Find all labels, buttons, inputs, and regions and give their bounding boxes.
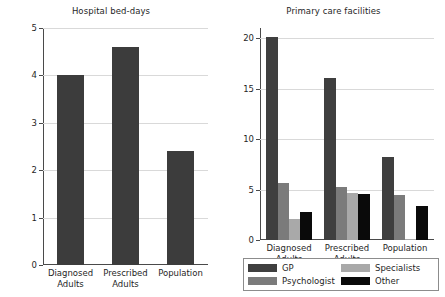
y-axis-right	[260, 28, 261, 240]
y-tick-label-right: 10	[243, 135, 254, 144]
x-tick-label-left: Diagnosed Adults	[43, 268, 98, 289]
legend-item-psychologist: Psychologist	[248, 277, 341, 286]
y-tick-label-right: 20	[243, 34, 254, 43]
figure-root: Hospital bed-days 012345 Diagnosed Adult…	[0, 0, 445, 297]
legend-label-psychologist: Psychologist	[282, 277, 335, 286]
y-tick-left-3	[39, 123, 43, 124]
legend: GPSpecialistsPsychologistOther	[243, 258, 439, 291]
chart-panel-primary-care-facilities: Primary care facilities 05101520 Diagnos…	[222, 0, 445, 297]
y-tick-label-left: 1	[32, 213, 37, 222]
x-tick-label-left: Prescribed Adults	[98, 268, 153, 289]
y-tick-label-left: 0	[32, 261, 37, 270]
y-tick-right-5	[256, 190, 260, 191]
y-tick-label-right: 15	[243, 84, 254, 93]
chart-title-right: Primary care facilities	[222, 6, 445, 16]
bar-right-other-2	[416, 206, 427, 240]
x-tick-labels-left: Diagnosed AdultsPrescribed AdultsPopulat…	[43, 268, 208, 289]
bar-right-other-1	[358, 194, 369, 240]
y-tick-label-left: 2	[32, 166, 37, 175]
bar-left-0	[57, 75, 85, 265]
y-tick-left-0	[39, 265, 43, 266]
legend-swatch-other	[341, 277, 370, 285]
legend-swatch-gp	[248, 264, 277, 272]
legend-item-specialists: Specialists	[341, 264, 434, 273]
legend-swatch-psychologist	[248, 277, 277, 285]
legend-swatch-specialists	[341, 264, 370, 272]
legend-label-gp: GP	[282, 264, 294, 273]
x-tick-label-left: Population	[153, 268, 208, 289]
y-tick-left-4	[39, 75, 43, 76]
y-tick-left-2	[39, 170, 43, 171]
y-tick-label-left: 5	[32, 24, 37, 33]
legend-label-specialists: Specialists	[375, 264, 420, 273]
y-tick-right-15	[256, 89, 260, 90]
gridline-right-10	[260, 139, 434, 140]
chart-title-left: Hospital bed-days	[0, 6, 222, 16]
gridline-right-20	[260, 38, 434, 39]
plot-area-left: 012345	[43, 28, 208, 265]
y-tick-left-5	[39, 28, 43, 29]
bar-left-2	[167, 151, 195, 265]
legend-item-other: Other	[341, 277, 434, 286]
bar-left-1	[112, 47, 140, 265]
bar-right-psychologist-1	[336, 187, 347, 241]
bar-right-specialists-2	[405, 239, 416, 240]
bar-right-other-0	[300, 212, 311, 240]
y-tick-right-10	[256, 139, 260, 140]
bar-right-gp-0	[266, 37, 277, 240]
y-tick-label-right: 0	[249, 236, 254, 245]
y-tick-label-left: 4	[32, 71, 37, 80]
legend-label-other: Other	[375, 277, 399, 286]
y-tick-left-1	[39, 218, 43, 219]
bar-right-gp-2	[382, 157, 393, 240]
gridline-left-5	[43, 28, 208, 29]
bar-right-specialists-1	[347, 193, 358, 240]
bar-right-gp-1	[324, 78, 335, 240]
bar-right-psychologist-2	[394, 195, 405, 240]
y-tick-right-20	[256, 38, 260, 39]
y-axis-left	[43, 28, 44, 265]
gridline-right-15	[260, 89, 434, 90]
legend-item-gp: GP	[248, 264, 341, 273]
plot-area-right: 05101520	[260, 28, 434, 240]
y-tick-right-0	[256, 240, 260, 241]
y-tick-label-left: 3	[32, 119, 37, 128]
y-tick-label-right: 5	[249, 185, 254, 194]
bar-right-specialists-0	[289, 219, 300, 240]
chart-panel-hospital-bed-days: Hospital bed-days 012345 Diagnosed Adult…	[0, 0, 222, 297]
bar-right-psychologist-0	[278, 183, 289, 240]
